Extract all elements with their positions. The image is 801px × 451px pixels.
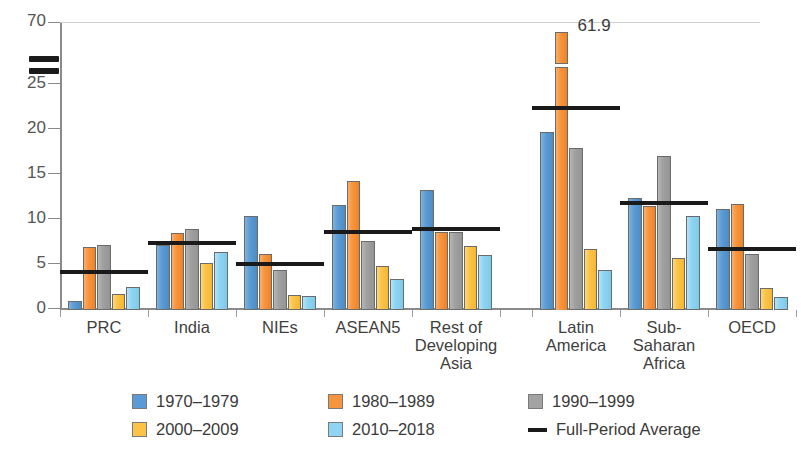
bar: [376, 266, 390, 310]
bar-break-gap: [555, 63, 569, 68]
bar: [731, 204, 745, 310]
x-tick: [236, 310, 237, 317]
legend-item-full-period-average: Full-Period Average: [528, 420, 701, 439]
bar-group: [628, 22, 700, 310]
bar: [214, 252, 228, 311]
bar: [540, 132, 554, 310]
y-tick-label: 0: [0, 299, 46, 316]
bar: [598, 270, 612, 310]
legend-row-1: 1970–1979 1980–1989 1990–1999: [132, 392, 752, 420]
full-period-average-line: [412, 227, 500, 231]
bar: [774, 297, 788, 310]
legend-item-1970-1979: 1970–1979: [132, 392, 239, 411]
y-tick-label: 10: [0, 209, 46, 226]
bar-group-bars: 61.9: [540, 22, 612, 310]
x-axis-label-line: Developing: [398, 336, 514, 354]
bar-value-label: 61.9: [578, 16, 611, 36]
y-tick: [48, 83, 60, 84]
x-tick: [60, 310, 61, 317]
legend-label: 1970–1979: [156, 392, 239, 411]
bar-group-bars: [332, 22, 404, 310]
bar-group-bars: [244, 22, 316, 310]
bar: [83, 247, 97, 310]
legend-item-2000-2009: 2000–2009: [132, 420, 239, 439]
legend-label: 1980–1989: [352, 392, 435, 411]
bar: [628, 198, 642, 310]
bar: [760, 288, 774, 311]
legend-label: Full-Period Average: [556, 420, 701, 439]
bar: [156, 245, 170, 310]
y-tick-label: 70: [0, 12, 46, 29]
bar: [657, 156, 671, 310]
x-axis-label-line: Saharan: [606, 336, 722, 354]
bar: [200, 263, 214, 310]
legend-label: 2000–2009: [156, 420, 239, 439]
legend-line-icon: [528, 428, 547, 432]
bar-group: [244, 22, 316, 310]
bar: [464, 246, 478, 310]
x-tick: [412, 310, 413, 317]
legend-row-2: 2000–2009 2010–2018 Full-Period Average: [132, 420, 752, 448]
y-tick: [48, 128, 60, 129]
bar: [420, 190, 434, 310]
full-period-average-line: [324, 230, 412, 234]
bar: [68, 301, 82, 310]
y-tick: [48, 173, 60, 174]
bar: [449, 232, 463, 310]
legend-label: 2010–2018: [352, 420, 435, 439]
bar: [569, 148, 583, 310]
x-axis-label: OECD: [694, 318, 801, 336]
bar: [126, 287, 140, 310]
bar: [390, 279, 404, 311]
y-tick: [48, 308, 60, 309]
bar-group: [716, 22, 788, 310]
chart-legend: 1970–1979 1980–1989 1990–1999 2000–2009 …: [132, 392, 752, 448]
bar-group: [332, 22, 404, 310]
x-tick: [708, 310, 709, 317]
full-period-average-line: [532, 106, 620, 110]
legend-label: 1990–1999: [552, 392, 635, 411]
bar: [745, 254, 759, 310]
bar: [435, 232, 449, 310]
legend-item-1980-1989: 1980–1989: [328, 392, 435, 411]
bar-group: 61.9: [540, 22, 612, 310]
x-axis-label: Rest ofDevelopingAsia: [398, 318, 514, 372]
y-tick: [48, 22, 60, 23]
bar-group-bars: [716, 22, 788, 310]
bar: [332, 205, 346, 310]
x-axis-label-line: Africa: [606, 354, 722, 372]
bar-group: [420, 22, 492, 310]
bar: [288, 295, 302, 310]
legend-swatch-icon: [132, 422, 147, 437]
bar-group-bars: [628, 22, 700, 310]
legend-swatch-icon: [528, 394, 543, 409]
bar-group-bars: [68, 22, 140, 310]
bar: [302, 296, 316, 310]
x-tick: [620, 310, 621, 317]
bar: [672, 258, 686, 310]
x-tick: [148, 310, 149, 317]
x-axis-label-line: Rest of: [398, 318, 514, 336]
y-tick: [48, 263, 60, 264]
bar: [347, 181, 361, 310]
y-tick-label: 25: [0, 74, 46, 91]
bar: [361, 241, 375, 310]
legend-swatch-icon: [132, 394, 147, 409]
bar: [643, 206, 657, 310]
full-period-average-line: [236, 262, 324, 266]
x-tick: [532, 310, 533, 317]
y-tick-label: 5: [0, 254, 46, 271]
y-tick-label: 20: [0, 119, 46, 136]
x-axis-label-line: Asia: [398, 354, 514, 372]
y-tick-label: 15: [0, 164, 46, 181]
axis-break-mark-upper: [29, 56, 59, 62]
full-period-average-line: [708, 247, 796, 251]
x-tick: [324, 310, 325, 317]
y-tick: [48, 218, 60, 219]
legend-swatch-icon: [328, 394, 343, 409]
full-period-average-line: [148, 241, 236, 245]
bar: [273, 270, 287, 311]
bar-group: [156, 22, 228, 310]
bar: 61.9: [555, 32, 569, 310]
